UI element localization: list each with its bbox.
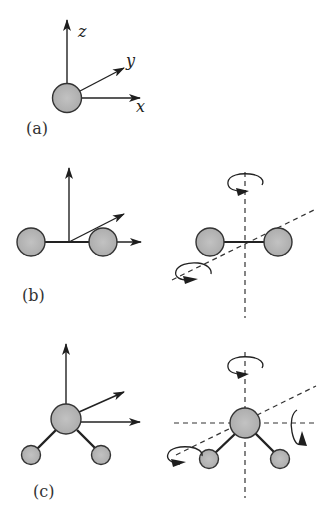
panel-b-rotations	[172, 172, 316, 318]
bond-right	[77, 430, 97, 450]
x-axis-label: x	[136, 97, 145, 116]
rotation-arrowhead	[171, 459, 186, 467]
atom-small-left	[200, 450, 219, 469]
rotation-arrowhead	[236, 371, 249, 379]
atom-left	[17, 228, 45, 256]
atom-right	[264, 228, 292, 256]
bond-right	[255, 433, 275, 453]
panel-c-axes: (c)	[22, 344, 141, 501]
panel-a: z y x (a)	[26, 20, 145, 138]
rotation-arrowhead	[183, 276, 198, 284]
rotation-arrowhead	[298, 431, 307, 446]
panel-label-c: (c)	[33, 482, 54, 501]
bond-left	[36, 430, 56, 450]
rotation-arrowhead	[236, 188, 249, 196]
atom-central	[230, 408, 260, 438]
y-axis-label: y	[125, 51, 136, 70]
panel-c-rotations	[168, 352, 316, 498]
atom	[53, 84, 82, 113]
atom-left	[196, 228, 224, 256]
z-axis-label: z	[77, 22, 87, 41]
panel-label-b: (b)	[22, 286, 45, 305]
atom-right	[89, 228, 117, 256]
atom-small-right	[92, 446, 111, 465]
atom-small-left	[22, 446, 41, 465]
bond-left	[215, 433, 236, 453]
y-axis-arrow	[80, 68, 124, 91]
panel-b-axes: (b)	[17, 168, 141, 305]
panel-label-a: (a)	[26, 119, 48, 138]
atom-central	[51, 404, 81, 434]
y-axis-arrow	[79, 392, 124, 412]
rotation-arrow-oblique-icon	[176, 263, 212, 280]
rotation-arrow-horizontal-icon	[291, 410, 301, 444]
atom-small-right	[271, 450, 290, 469]
molecule-rotation-diagram: z y x (a) (b) (c)	[0, 0, 334, 529]
oblique-rotation-axis	[172, 209, 316, 280]
